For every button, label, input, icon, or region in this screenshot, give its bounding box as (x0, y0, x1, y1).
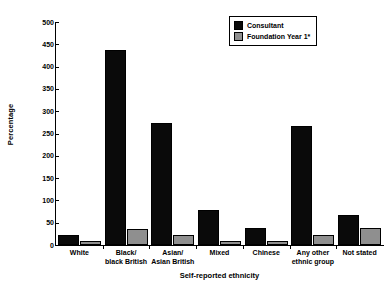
x-axis-tick-label: Asian/Asian British (149, 249, 196, 266)
legend-item: Foundation Year 1* (234, 31, 310, 42)
legend-label: Consultant (247, 22, 284, 29)
x-axis-line (55, 245, 384, 246)
x-axis-tick-label: Black/black British (103, 249, 150, 266)
x-axis-tick-label-line: Chinese (243, 249, 290, 258)
bar-foundation-year-1 (127, 229, 148, 245)
bar-foundation-year-1 (173, 235, 194, 245)
bar-group (243, 22, 290, 245)
x-axis-tick-label-line: Asian/ (149, 249, 196, 258)
x-axis-tick-label-line: White (56, 249, 103, 258)
y-axis-tick-label: 300 (42, 108, 56, 115)
x-axis-tick-label-line: Mixed (196, 249, 243, 258)
bar-chart: Percentage 05010015020025030035040045050… (0, 0, 390, 290)
y-axis-tick-mark (56, 245, 59, 246)
legend-item: Consultant (234, 20, 310, 31)
legend-swatch-consultant (234, 21, 243, 30)
bar-foundation-year-1 (220, 241, 241, 245)
bar-foundation-year-1 (313, 235, 334, 245)
bar-series-container (56, 22, 383, 245)
bar-group (196, 22, 243, 245)
bar-consultant (198, 210, 219, 245)
y-axis-tick-label: 500 (42, 19, 56, 26)
bar-consultant (245, 228, 266, 245)
y-axis-tick-label: 450 (42, 41, 56, 48)
x-axis-tick-label-line: Not stated (336, 249, 383, 258)
bar-group (336, 22, 383, 245)
y-axis-tick-label: 250 (42, 130, 56, 137)
x-axis-tick-label-line: black British (103, 258, 150, 267)
bar-consultant (291, 126, 312, 245)
y-axis-tick-label: 350 (42, 85, 56, 92)
y-axis-tick-label: 50 (46, 219, 56, 226)
x-axis-title: Self-reported ethnicity (56, 271, 383, 280)
x-axis-tick-label: Chinese (243, 249, 290, 258)
bar-group (103, 22, 150, 245)
y-axis-tick-label: 150 (42, 175, 56, 182)
x-axis-tick-label-line: Black/ (103, 249, 150, 258)
y-axis-tick-label: 100 (42, 197, 56, 204)
bar-consultant (338, 215, 359, 245)
y-axis-title: Percentage (2, 0, 20, 248)
bar-foundation-year-1 (80, 241, 101, 245)
y-axis-title-text: Percentage (7, 103, 16, 144)
chart-legend: ConsultantFoundation Year 1* (229, 16, 317, 46)
plot-area: 050100150200250300350400450500 (56, 22, 383, 245)
bar-group (56, 22, 103, 245)
bar-consultant (58, 235, 79, 245)
bar-group (149, 22, 196, 245)
legend-swatch-fy1 (234, 32, 243, 41)
y-axis-tick-label: 200 (42, 152, 56, 159)
bar-foundation-year-1 (360, 228, 381, 245)
x-axis-tick-label: White (56, 249, 103, 258)
x-axis-tick-label-line: Any other (290, 249, 337, 258)
x-axis-tick-label-line: ethnic group (290, 258, 337, 267)
x-axis-tick-label: Not stated (336, 249, 383, 258)
bar-consultant (151, 123, 172, 245)
y-axis-tick-label: 400 (42, 63, 56, 70)
bar-foundation-year-1 (267, 241, 288, 245)
bar-group (290, 22, 337, 245)
x-axis-tick-label-line: Asian British (149, 258, 196, 267)
x-axis-tick-label: Mixed (196, 249, 243, 258)
legend-label: Foundation Year 1* (247, 33, 310, 40)
bar-consultant (105, 50, 126, 245)
x-axis-tick-label: Any otherethnic group (290, 249, 337, 266)
